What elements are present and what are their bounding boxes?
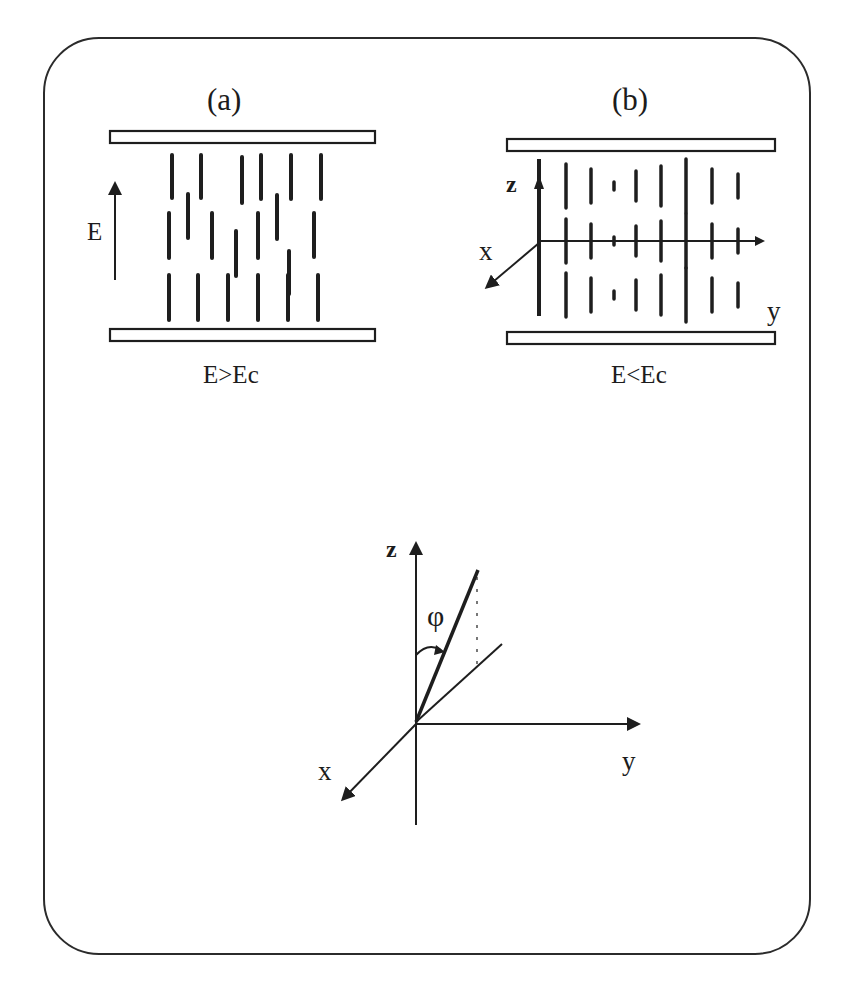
panel-a-diagram — [110, 131, 375, 341]
director-vector — [416, 570, 478, 722]
bottom-electrode-plate — [110, 329, 375, 341]
x-axis-arrow — [487, 243, 539, 287]
panel-b-z-axis-label: z — [506, 172, 517, 196]
panel-b-diagram — [487, 139, 775, 344]
panel-a-condition: E>Ec — [203, 362, 259, 387]
top-electrode-plate — [110, 131, 375, 143]
orientation-z-axis-label: z — [386, 537, 397, 561]
z-arrowhead-icon — [534, 175, 544, 189]
panel-b-title: (b) — [612, 84, 648, 115]
electric-field-label: E — [87, 219, 102, 244]
tilt-angle-phi-label: φ — [427, 601, 444, 631]
bottom-electrode-plate — [507, 332, 775, 344]
projection-line — [416, 644, 502, 722]
panel-a-title: (a) — [207, 84, 241, 115]
panel-b-condition: E<Ec — [611, 362, 667, 387]
panel-b-y-axis-label: y — [767, 298, 781, 325]
orientation-diagram — [343, 544, 638, 825]
figure-canvas — [0, 0, 844, 988]
top-electrode-plate — [507, 139, 775, 151]
x-axis-arrow — [343, 724, 416, 799]
orientation-y-axis-label: y — [622, 748, 636, 775]
panel-b-x-axis-label: x — [479, 238, 493, 265]
orientation-x-axis-label: x — [318, 758, 332, 785]
